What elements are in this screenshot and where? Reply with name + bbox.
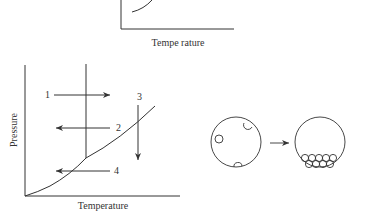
phase-diagram [25,64,180,196]
gas-particle [215,135,223,143]
arrow-2-label: 2 [116,122,121,133]
gas-particle [244,123,252,129]
top-chart [121,0,234,29]
sublimation-curve [25,158,86,196]
liquid-container [295,117,345,167]
phase-xlabel: Temperature [78,200,129,211]
figure-canvas: Tempe rature 1 2 3 4 Temperature Pressur… [0,0,367,213]
phase-ylabel: Pressure [8,113,19,147]
gas-container [211,117,261,167]
arrow-1-label: 1 [45,89,50,100]
condensed-particles [301,154,336,167]
top-chart-curve [132,0,152,12]
top-chart-xlabel: Tempe rature [152,37,205,48]
particles-figure [211,117,345,168]
arrow-3-label: 3 [137,91,142,102]
arrow-4-label: 4 [114,165,119,176]
